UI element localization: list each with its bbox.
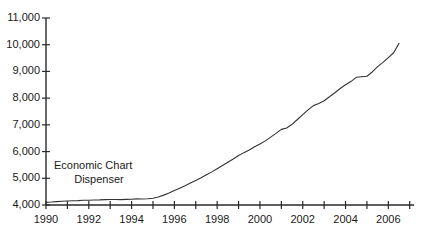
annotation-line-2: Dispenser [54, 172, 160, 186]
x-axis-tick-label: 2002 [283, 214, 323, 225]
y-axis-tick-label: 8,000 [0, 92, 40, 103]
y-axis-tick-label: 7,000 [0, 119, 40, 130]
x-axis-tick-label: 1998 [197, 214, 237, 225]
x-axis-tick-label: 1992 [69, 214, 109, 225]
x-axis-tick-label: 1990 [26, 214, 66, 225]
economic-line-chart: 4,0005,0006,0007,0008,0009,00010,00011,0… [0, 0, 424, 237]
annotation-line-1: Economic Chart [54, 158, 160, 172]
chart-annotation-economic-chart-dispenser: Economic Chart Dispenser [54, 158, 160, 186]
x-axis-tick-label: 2000 [240, 214, 280, 225]
y-axis-tick-label: 5,000 [0, 172, 40, 183]
y-axis-tick-label: 10,000 [0, 39, 40, 50]
x-axis-tick-label: 1996 [154, 214, 194, 225]
y-axis-tick-label: 9,000 [0, 65, 40, 76]
x-axis-tick-label: 2006 [368, 214, 408, 225]
x-axis-tick-label: 1994 [112, 214, 152, 225]
chart-plot-area [0, 0, 424, 237]
y-axis-tick-label: 6,000 [0, 146, 40, 157]
y-axis-tick-label: 4,000 [0, 199, 40, 210]
x-axis-tick-label: 2004 [326, 214, 366, 225]
y-axis-tick-label: 11,000 [0, 12, 40, 23]
